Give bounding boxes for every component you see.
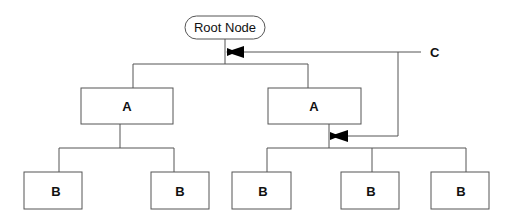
node-b-3-label: B — [258, 184, 267, 199]
root-connectors — [133, 39, 308, 88]
node-b-1: B — [24, 172, 82, 209]
tree-diagram: Root Node A A B B B — [0, 0, 512, 220]
node-b-1-label: B — [51, 184, 60, 199]
left-a-connectors — [59, 124, 174, 172]
node-b-5-label: B — [456, 184, 465, 199]
node-a-right: A — [268, 88, 361, 124]
node-b-3: B — [232, 172, 291, 209]
node-a-right-label: A — [309, 99, 319, 114]
node-b-5: B — [431, 172, 489, 209]
node-a-left-label: A — [122, 99, 132, 114]
node-b-2: B — [151, 172, 209, 209]
root-node-label: Root Node — [194, 20, 256, 35]
root-node: Root Node — [185, 16, 265, 39]
node-b-2-label: B — [175, 184, 184, 199]
node-a-left: A — [81, 88, 173, 124]
arrowhead-left-icon — [330, 130, 348, 142]
callout-c-label: C — [430, 45, 440, 60]
arrowhead-left-icon — [226, 46, 244, 58]
node-b-4: B — [341, 172, 399, 209]
right-a-connectors — [267, 124, 466, 172]
node-b-4-label: B — [366, 184, 375, 199]
